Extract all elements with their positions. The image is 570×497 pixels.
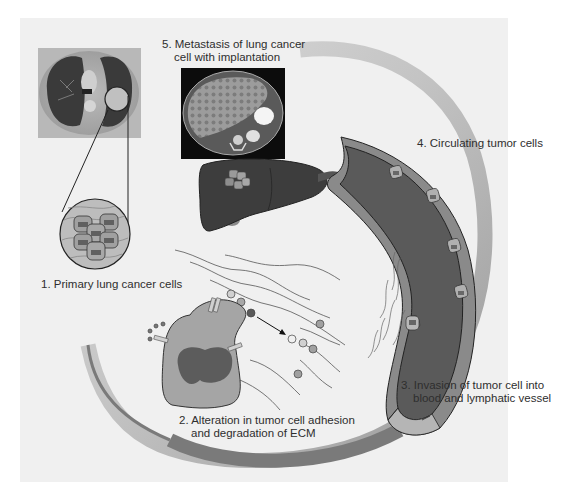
step-3-line1: 3. Invasion of tumor cell into bbox=[401, 379, 544, 391]
step-5-label: 5. Metastasis of lung cancer cell with i… bbox=[162, 38, 305, 64]
step-5-line2: cell with implantation bbox=[162, 51, 305, 64]
step-3-label: 3. Invasion of tumor cell into blood and… bbox=[401, 379, 551, 405]
invading-tumor-cell bbox=[406, 316, 419, 330]
primary-cancer-cells-magnified bbox=[60, 199, 130, 269]
step-5-line1: 5. Metastasis of lung cancer bbox=[162, 38, 305, 50]
step-4-line1: 4. Circulating tumor cells bbox=[417, 137, 543, 149]
step-1-line1: 1. Primary lung cancer cells bbox=[41, 278, 182, 290]
step-2-label: 2. Alteration in tumor cell adhesion and… bbox=[179, 414, 355, 440]
step-2-line2: and degradation of ECM bbox=[179, 427, 355, 440]
liver-ct-image bbox=[181, 68, 285, 159]
step-4-label: 4. Circulating tumor cells bbox=[417, 137, 543, 150]
step-1-label: 1. Primary lung cancer cells bbox=[41, 278, 182, 291]
step-3-line2: blood and lymphatic vessel bbox=[401, 392, 551, 405]
step-2-line1: 2. Alteration in tumor cell adhesion bbox=[179, 414, 355, 426]
lung-ct-image bbox=[38, 48, 141, 138]
